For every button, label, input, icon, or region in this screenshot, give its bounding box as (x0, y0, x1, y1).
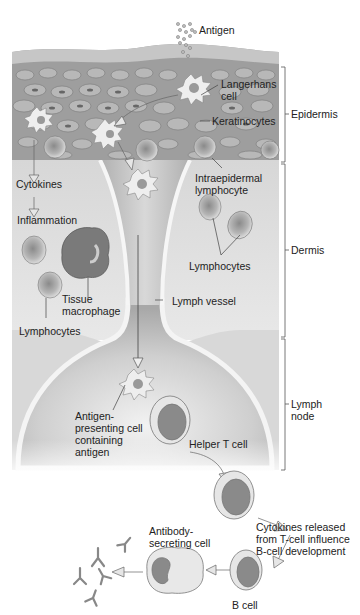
label-langerhans-cell: Langerhans cell (221, 78, 276, 102)
region-label-dermis: Dermis (291, 244, 324, 256)
label-cytokines: Cytokines (16, 178, 62, 190)
label-antibody-secreting-cell: Antibody- secreting cell (149, 525, 210, 549)
label-antigen: Antigen (199, 24, 235, 36)
label-lymph-vessel: Lymph vessel (172, 295, 236, 307)
label-intraepidermal-lymphocyte: Intraepidermal lymphocyte (195, 172, 262, 196)
label-helper-t-cell: Helper T cell (189, 438, 248, 450)
tissue-macrophage (62, 228, 109, 279)
region-label-epidermis: Epidermis (291, 108, 338, 120)
label-inflammation: Inflammation (17, 214, 77, 226)
antibodies (74, 535, 134, 606)
region-brackets (281, 67, 289, 470)
label-lymphocytes-right: Lymphocytes (189, 260, 250, 272)
label-tissue-macrophage: Tissue macrophage (62, 293, 120, 317)
label-antigen-presenting-cell: Antigen- presenting cell containing anti… (75, 410, 143, 458)
region-label-lymph-node: Lymph node (291, 398, 322, 422)
label-lymphocytes-left: Lymphocytes (19, 325, 80, 337)
label-keratinocytes: Keratinocytes (212, 115, 276, 127)
epidermis-layer (12, 44, 279, 161)
label-cytokines-released: Cytokines released from T-cell influence… (256, 521, 350, 557)
label-b-cell: B cell (232, 599, 258, 611)
